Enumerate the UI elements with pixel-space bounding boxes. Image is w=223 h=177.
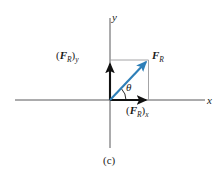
resultant-force-label: FR — [152, 50, 164, 64]
y-component-label-axis: y — [75, 55, 78, 64]
theta-angle-label: θ — [126, 82, 131, 93]
x-component-label-axis: x — [145, 110, 148, 119]
y-component-label-symbol: F — [60, 49, 67, 61]
x-component-label: (FR)x — [126, 105, 149, 119]
y-component-label: (FR)y — [56, 50, 79, 64]
figure-caption: (c) — [103, 155, 115, 166]
vector-diagram-canvas — [0, 0, 223, 177]
resultant-force-label-subscript: R — [159, 55, 164, 64]
x-axis-label: x — [207, 95, 212, 106]
vector-diagram-figure: y x FR (FR)y (FR)x θ (c) — [0, 0, 223, 177]
x-component-label-symbol: F — [130, 104, 137, 116]
y-axis-label: y — [112, 12, 117, 23]
